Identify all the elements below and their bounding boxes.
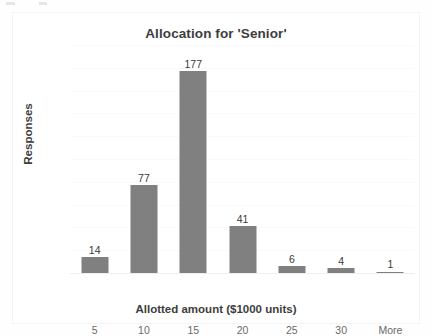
bar-more[interactable] (377, 272, 404, 273)
bar-slot: 4 (317, 45, 366, 273)
bar-value-label: 14 (89, 244, 101, 256)
plot-area: 200 180 160 140 120 100 80 60 40 20 0 14… (70, 45, 415, 273)
chart-title: Allocation for 'Senior' (0, 26, 432, 41)
bar-30[interactable] (328, 268, 355, 273)
bar-chart: Allocation for 'Senior' Responses 200 18… (0, 0, 432, 336)
bar-slot: 6 (267, 45, 316, 273)
x-tick-label-5: 5 (92, 324, 98, 336)
bar-slot: 41 (218, 45, 267, 273)
bar-slot: 14 (70, 45, 119, 273)
scan-artifact (39, 2, 47, 5)
bar-10[interactable] (130, 185, 157, 273)
bar-slot: 1 (366, 45, 415, 273)
x-tick-label-20: 20 (237, 324, 249, 336)
axis-baseline (70, 273, 415, 274)
bar-slot: 77 (119, 45, 168, 273)
bar-value-label: 77 (138, 172, 150, 184)
bar-5[interactable] (81, 257, 108, 273)
bar-value-label: 177 (184, 58, 202, 70)
scan-artifact (6, 2, 15, 5)
x-tick-label-more: More (378, 324, 402, 336)
x-tick-label-25: 25 (286, 324, 298, 336)
y-axis-title: Responses (22, 84, 34, 184)
bar-15[interactable] (180, 71, 207, 273)
x-tick-label-15: 15 (187, 324, 199, 336)
bar-20[interactable] (229, 226, 256, 273)
bar-slot: 177 (169, 45, 218, 273)
bar-value-label: 6 (289, 253, 295, 265)
bar-value-label: 41 (237, 213, 249, 225)
bar-value-label: 1 (388, 258, 394, 270)
bar-value-label: 4 (338, 255, 344, 267)
x-tick-label-10: 10 (138, 324, 150, 336)
x-axis-title: Allotted amount ($1000 units) (0, 303, 432, 315)
bar-25[interactable] (278, 266, 305, 273)
x-tick-label-30: 30 (335, 324, 347, 336)
